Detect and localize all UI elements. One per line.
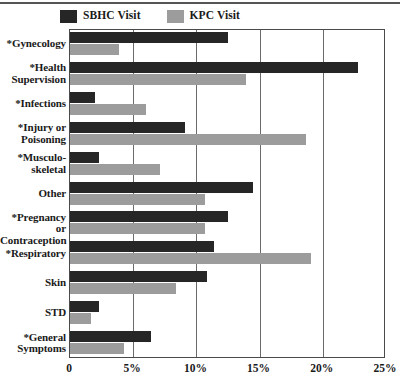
bar-sbhc <box>70 152 99 163</box>
category-label: *Infections <box>0 98 66 110</box>
bar-sbhc <box>70 271 207 282</box>
bar-kpc <box>70 313 91 324</box>
bar-kpc <box>70 283 176 294</box>
legend-swatch-sbhc <box>60 10 77 23</box>
x-axis-tick-labels: 05%10%15%20%25% <box>0 362 400 382</box>
bar-sbhc <box>70 32 228 43</box>
category-label: STD <box>0 307 66 319</box>
chart-legend: SBHC Visit KPC Visit <box>60 8 240 24</box>
x-tick-label: 0 <box>66 362 72 374</box>
bar-chart: SBHC Visit KPC Visit *Gynecology*HealthS… <box>0 0 400 390</box>
bar-sbhc <box>70 211 228 222</box>
bar-kpc <box>70 44 119 55</box>
bar-sbhc <box>70 241 214 252</box>
category-label: *GeneralSymptoms <box>0 332 66 355</box>
x-tick-label: 20% <box>310 362 333 374</box>
x-tick-label: 15% <box>247 362 270 374</box>
y-axis-category-labels: *Gynecology*HealthSupervision*Infections… <box>0 29 66 358</box>
category-label: Skin <box>0 277 66 289</box>
bar-row <box>70 60 384 90</box>
bar-row <box>70 329 384 359</box>
bar-sbhc <box>70 182 253 193</box>
category-label: *Gynecology <box>0 38 66 50</box>
category-label: *Injury orPoisoning <box>0 122 66 145</box>
legend-item-sbhc: SBHC Visit <box>60 10 141 23</box>
bar-row <box>70 269 384 299</box>
x-tick-label: 5% <box>124 362 141 374</box>
bar-row <box>70 299 384 329</box>
x-tick-label: 10% <box>184 362 207 374</box>
bar-row <box>70 239 384 269</box>
bar-sbhc <box>70 92 95 103</box>
plot-area <box>69 29 385 358</box>
bar-sbhc <box>70 331 151 342</box>
category-label: *Respiratory <box>0 248 66 260</box>
legend-item-kpc: KPC Visit <box>167 10 240 23</box>
bar-rows <box>70 30 384 357</box>
bar-row <box>70 120 384 150</box>
bar-kpc <box>70 223 205 234</box>
bar-row <box>70 30 384 60</box>
bar-kpc <box>70 134 306 145</box>
bar-kpc <box>70 74 246 85</box>
bar-sbhc <box>70 301 99 312</box>
legend-swatch-kpc <box>167 10 184 23</box>
bar-kpc <box>70 164 160 175</box>
legend-label-sbhc: SBHC Visit <box>83 10 141 22</box>
bar-row <box>70 90 384 120</box>
category-label: *Musculo-skeletal <box>0 152 66 175</box>
category-label: Other <box>0 188 66 200</box>
bar-kpc <box>70 343 124 354</box>
bar-kpc <box>70 194 205 205</box>
bar-sbhc <box>70 122 185 133</box>
bar-kpc <box>70 253 311 264</box>
bar-row <box>70 180 384 210</box>
category-label: *Pregnancy orContraception <box>0 212 66 247</box>
legend-label-kpc: KPC Visit <box>190 10 240 22</box>
bar-row <box>70 209 384 239</box>
bar-row <box>70 150 384 180</box>
x-tick-label: 25% <box>374 362 397 374</box>
bar-sbhc <box>70 62 358 73</box>
category-label: *HealthSupervision <box>0 62 66 85</box>
bar-kpc <box>70 104 146 115</box>
top-divider <box>0 2 400 4</box>
